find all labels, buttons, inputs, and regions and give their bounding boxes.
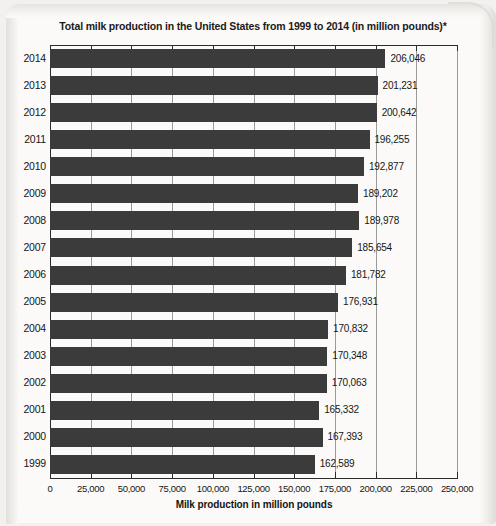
y-axis-tick-label: 2007 [2, 241, 46, 253]
bar-value-label: 201,231 [383, 80, 418, 91]
gridline [457, 45, 458, 478]
bar [50, 266, 346, 285]
bar [50, 374, 327, 393]
bar-value-label: 167,393 [328, 431, 363, 442]
x-axis-tick-label: 75,000 [158, 483, 185, 494]
bar-value-label: 162,589 [320, 458, 355, 469]
x-axis-tick-label: 250,000 [441, 483, 473, 494]
y-axis-tick-label: 2004 [2, 322, 46, 334]
x-axis-tick-top [457, 45, 458, 51]
bar [50, 320, 328, 339]
x-axis-tick-label: 200,000 [359, 483, 391, 494]
x-axis-tick-label: 175,000 [319, 483, 351, 494]
x-axis-tick-label: 225,000 [400, 483, 432, 494]
y-axis-tick-labels: 2014201320122011201020092008200720062005… [0, 45, 46, 478]
x-axis-tick-label: 100,000 [197, 483, 229, 494]
x-axis-tick-bottom [416, 472, 417, 478]
bar-value-label: 170,063 [332, 377, 367, 388]
x-axis-tick-bottom [335, 472, 336, 478]
bar-value-label: 200,642 [382, 107, 417, 118]
gridline [416, 45, 417, 478]
x-axis-tick-bottom [376, 472, 377, 478]
bar-value-label: 196,255 [375, 134, 410, 145]
x-axis-tick-label: 125,000 [237, 483, 269, 494]
bar-value-label: 189,978 [364, 215, 399, 226]
x-axis-tick-bottom [457, 472, 458, 478]
y-axis-tick-label: 2009 [2, 187, 46, 199]
bar [50, 347, 327, 366]
bar [50, 293, 338, 312]
y-axis-tick-label: 2011 [2, 133, 46, 145]
y-axis-tick-label: 2013 [2, 79, 46, 91]
bar-value-label: 170,832 [333, 323, 368, 334]
bar [50, 401, 319, 420]
y-axis-tick-label: 2001 [2, 403, 46, 415]
bar [50, 49, 385, 68]
bar [50, 238, 352, 257]
bar [50, 103, 377, 122]
y-axis-tick-label: 2010 [2, 160, 46, 172]
x-axis-tick-label: 0 [48, 483, 53, 494]
bar-value-label: 165,332 [324, 404, 359, 415]
bar [50, 428, 323, 447]
x-axis-title: Milk production in million pounds [50, 499, 458, 510]
bar [50, 455, 315, 474]
x-axis-tick-label: 50,000 [118, 483, 145, 494]
bar-value-label: 189,202 [363, 188, 398, 199]
bar-chart: Total milk production in the United Stat… [0, 0, 496, 526]
y-axis-tick-label: 2003 [2, 349, 46, 361]
x-axis-tick-label: 25,000 [77, 483, 104, 494]
bar [50, 76, 378, 95]
y-axis-tick-label: 1999 [2, 457, 46, 469]
bar-value-label: 176,931 [343, 296, 378, 307]
y-axis-tick-label: 2008 [2, 214, 46, 226]
bar [50, 157, 364, 176]
bar-value-label: 181,782 [351, 269, 386, 280]
bar-value-label: 185,654 [357, 242, 392, 253]
bar-value-label: 206,046 [390, 53, 425, 64]
y-axis-tick-label: 2002 [2, 376, 46, 388]
chart-title: Total milk production in the United Stat… [28, 20, 478, 32]
y-axis-tick-label: 2005 [2, 295, 46, 307]
y-axis-tick-label: 2014 [2, 52, 46, 64]
bar [50, 211, 359, 230]
x-axis-tick-top [416, 45, 417, 51]
y-axis-tick-label: 2000 [2, 430, 46, 442]
scanned-page: Total milk production in the United Stat… [0, 0, 496, 526]
bar-value-label: 170,348 [332, 350, 367, 361]
bar [50, 184, 358, 203]
bar [50, 130, 370, 149]
y-axis-tick-label: 2006 [2, 268, 46, 280]
x-axis-line [50, 478, 458, 479]
x-axis-tick-label: 150,000 [278, 483, 310, 494]
y-axis-tick-label: 2012 [2, 106, 46, 118]
bar-value-label: 192,877 [369, 161, 404, 172]
